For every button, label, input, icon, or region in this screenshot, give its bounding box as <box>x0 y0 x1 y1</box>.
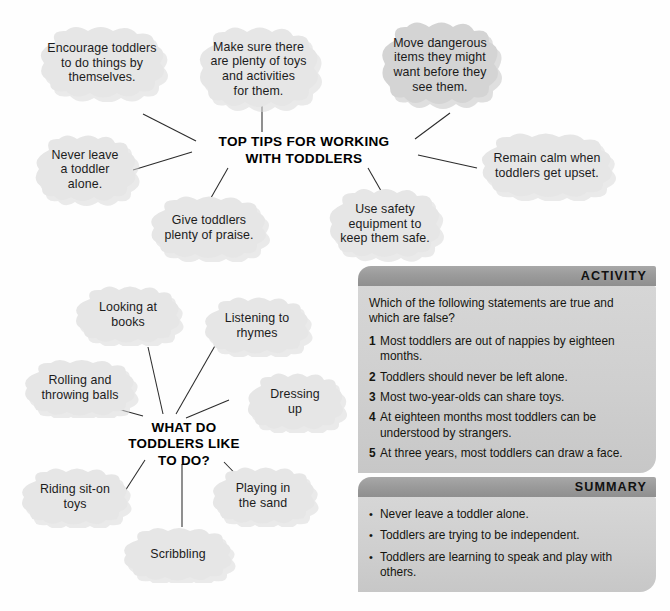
cloud-node: Scribbling <box>117 526 239 583</box>
activity-item-number: 4 <box>369 410 380 441</box>
cloud-node: Make sure there are plenty of toys and a… <box>191 24 326 114</box>
cloud-node: Give toddlers plenty of praise. <box>143 194 275 262</box>
cloud-label: Never leave a toddler alone. <box>45 148 124 192</box>
bullet-icon: • <box>369 528 380 543</box>
summary-panel-body: • Never leave a toddler alone. • Toddler… <box>358 497 656 592</box>
activity-statement-list: 1 Most toddlers are out of nappies by ei… <box>369 334 644 462</box>
summary-bullet-item: • Never leave a toddler alone. <box>369 507 644 522</box>
cloud-node: Looking at books <box>70 284 186 346</box>
activity-item-text: Most two-year-olds can share toys. <box>380 390 644 405</box>
cloud-label: Looking at books <box>93 300 163 329</box>
activity-item-number: 1 <box>369 334 380 365</box>
activity-item-number: 5 <box>369 446 380 461</box>
cloud-node: Remain calm when toddlers get upset. <box>472 131 622 201</box>
cloud-label: Scribbling <box>144 547 211 562</box>
activity-intro-text: Which of the following statements are tr… <box>369 296 644 327</box>
connector-line <box>418 155 477 168</box>
bullet-icon: • <box>369 507 380 522</box>
connector-line <box>186 400 229 418</box>
cloud-node: Use safety equipment to keep them safe. <box>322 186 448 262</box>
activity-statement-item: 5 At three years, most toddlers can draw… <box>369 446 644 461</box>
summary-panel: SUMMARY • Never leave a toddler alone. •… <box>358 477 656 592</box>
cloud-node: Move dangerous items they might want bef… <box>374 19 506 111</box>
page-canvas: Encourage toddlers to do things by thems… <box>0 0 670 611</box>
connector-line <box>148 347 163 414</box>
activity-statement-item: 2 Toddlers should never be left alone. <box>369 370 644 385</box>
cloud-node: Playing in the sand <box>207 465 319 527</box>
summary-item-text: Never leave a toddler alone. <box>380 507 644 522</box>
cloud-node: Rolling and throwing balls <box>18 358 142 418</box>
activity-panel: ACTIVITY Which of the following statemen… <box>358 266 656 473</box>
cloud-label: Dressing up <box>264 387 326 416</box>
activity-item-number: 3 <box>369 390 380 405</box>
mindmap-center-title-top-tips: TOP TIPS FOR WORKING WITH TODDLERS <box>196 133 412 167</box>
summary-panel-header: SUMMARY <box>358 477 656 497</box>
cloud-label: Use safety equipment to keep them safe. <box>334 202 436 246</box>
activity-statement-item: 1 Most toddlers are out of nappies by ei… <box>369 334 644 365</box>
cloud-label: Rolling and throwing balls <box>35 373 124 402</box>
cloud-node: Encourage toddlers to do things by thems… <box>31 24 173 102</box>
summary-item-text: Toddlers are trying to be independent. <box>380 528 644 543</box>
activity-item-number: 2 <box>369 370 380 385</box>
cloud-label: Give toddlers plenty of praise. <box>158 213 259 242</box>
cloud-label: Move dangerous items they might want bef… <box>387 36 493 94</box>
cloud-label: Listening to rhymes <box>219 311 296 340</box>
activity-panel-body: Which of the following statements are tr… <box>358 286 656 473</box>
cloud-node: Riding sit-on toys <box>16 466 134 528</box>
summary-item-text: Toddlers are learning to speak and play … <box>380 550 644 581</box>
bullet-icon: • <box>369 550 380 581</box>
activity-item-text: At three years, most toddlers can draw a… <box>380 446 644 461</box>
activity-item-text: At eighteen months most toddlers can be … <box>380 410 644 441</box>
cloud-label: Make sure there are plenty of toys and a… <box>204 40 312 98</box>
summary-bullet-item: • Toddlers are learning to speak and pla… <box>369 550 644 581</box>
connector-line <box>415 113 450 139</box>
activity-panel-header: ACTIVITY <box>358 266 656 286</box>
activity-panel-title: ACTIVITY <box>581 269 647 283</box>
activity-item-text: Most toddlers are out of nappies by eigh… <box>380 334 644 365</box>
cloud-label: Remain calm when toddlers get upset. <box>488 151 607 180</box>
activity-statement-item: 3 Most two-year-olds can share toys. <box>369 390 644 405</box>
activity-item-text: Toddlers should never be left alone. <box>380 370 644 385</box>
cloud-label: Playing in the sand <box>230 481 297 510</box>
cloud-label: Riding sit-on toys <box>34 482 116 511</box>
summary-bullet-list: • Never leave a toddler alone. • Toddler… <box>369 507 644 581</box>
summary-bullet-item: • Toddlers are trying to be independent. <box>369 528 644 543</box>
cloud-node: Never leave a toddler alone. <box>30 133 140 206</box>
cloud-node: Listening to rhymes <box>199 295 315 357</box>
summary-panel-title: SUMMARY <box>575 480 647 494</box>
activity-statement-item: 4 At eighteen months most toddlers can b… <box>369 410 644 441</box>
mindmap-center-title-what-toddlers-like: WHAT DO TODDLERS LIKE TO DO? <box>108 420 260 469</box>
cloud-label: Encourage toddlers to do things by thems… <box>41 41 162 85</box>
connector-line <box>143 114 196 141</box>
connector-line <box>133 152 192 170</box>
